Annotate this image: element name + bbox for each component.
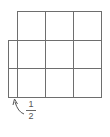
fraction-label: 1 2 bbox=[25, 100, 37, 121]
numerator: 1 bbox=[28, 99, 33, 109]
grid-outline bbox=[18, 12, 102, 98]
denominator: 2 bbox=[28, 111, 33, 121]
grid-diagram bbox=[0, 0, 110, 137]
arrow-icon bbox=[13, 99, 24, 114]
